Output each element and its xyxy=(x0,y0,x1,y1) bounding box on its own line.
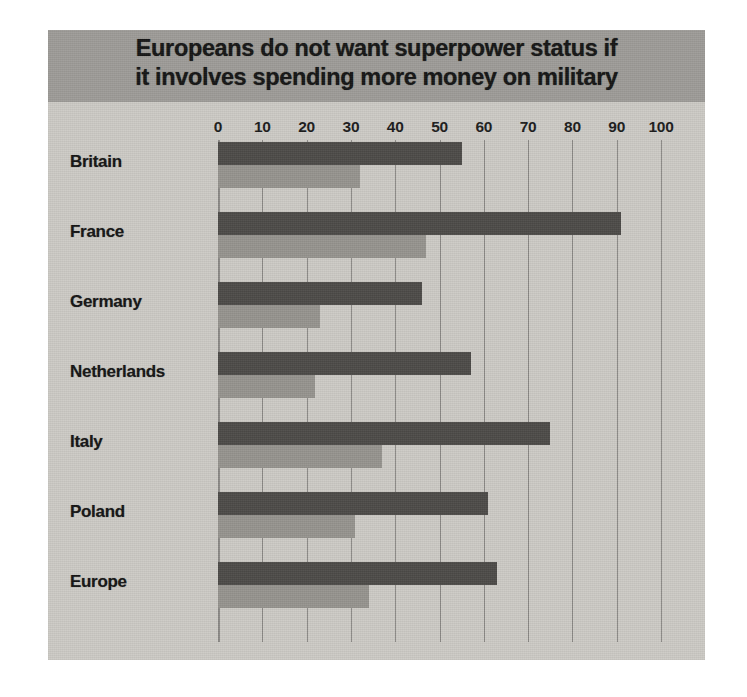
bar-group: France xyxy=(48,212,705,260)
plot-area: 0102030405060708090100 BritainFranceGerm… xyxy=(48,102,705,660)
bar-germany-series-2 xyxy=(218,305,320,328)
bar-poland-series-1 xyxy=(218,492,488,515)
x-tick-label-20: 20 xyxy=(298,118,315,136)
bar-italy-series-2 xyxy=(218,445,382,468)
category-label-italy: Italy xyxy=(48,432,200,452)
category-label-europe: Europe xyxy=(48,572,200,592)
bar-britain-series-1 xyxy=(218,142,462,165)
bar-france-series-2 xyxy=(218,235,426,258)
bar-netherlands-series-1 xyxy=(218,352,471,375)
chart-title-band: Europeans do not want superpower status … xyxy=(48,30,705,102)
chart-title: Europeans do not want superpower status … xyxy=(48,34,705,92)
category-label-britain: Britain xyxy=(48,152,200,172)
bar-germany-series-1 xyxy=(218,282,422,305)
bar-france-series-1 xyxy=(218,212,621,235)
x-tick-label-0: 0 xyxy=(214,118,222,136)
bar-group: Britain xyxy=(48,142,705,190)
bar-poland-series-2 xyxy=(218,515,355,538)
bar-rows: BritainFranceGermanyNetherlandsItalyPola… xyxy=(48,140,705,642)
x-tick-label-90: 90 xyxy=(608,118,625,136)
bar-europe-series-2 xyxy=(218,585,369,608)
bar-britain-series-2 xyxy=(218,165,360,188)
bar-italy-series-1 xyxy=(218,422,550,445)
chart-title-line-1: Europeans do not want superpower status … xyxy=(48,34,705,63)
x-tick-label-80: 80 xyxy=(564,118,581,136)
bar-group: Italy xyxy=(48,422,705,470)
bar-group: Europe xyxy=(48,562,705,610)
x-tick-label-60: 60 xyxy=(475,118,492,136)
chart-figure: Europeans do not want superpower status … xyxy=(48,30,705,660)
x-tick-label-100: 100 xyxy=(649,118,674,136)
chart-title-line-2: it involves spending more money on milit… xyxy=(48,63,705,92)
category-label-netherlands: Netherlands xyxy=(48,362,200,382)
bar-netherlands-series-2 xyxy=(218,375,315,398)
category-label-germany: Germany xyxy=(48,292,200,312)
category-label-poland: Poland xyxy=(48,502,200,522)
bar-group: Poland xyxy=(48,492,705,540)
x-tick-label-10: 10 xyxy=(254,118,271,136)
x-tick-label-40: 40 xyxy=(387,118,404,136)
bar-group: Netherlands xyxy=(48,352,705,400)
x-tick-label-30: 30 xyxy=(343,118,360,136)
x-axis-tick-labels: 0102030405060708090100 xyxy=(48,118,705,138)
bar-group: Germany xyxy=(48,282,705,330)
x-tick-label-50: 50 xyxy=(431,118,448,136)
x-tick-label-70: 70 xyxy=(520,118,537,136)
bar-europe-series-1 xyxy=(218,562,497,585)
category-label-france: France xyxy=(48,222,200,242)
